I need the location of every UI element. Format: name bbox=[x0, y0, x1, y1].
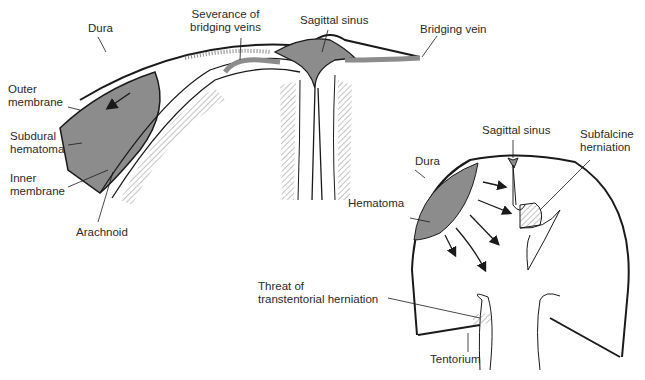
label-subdural-hematoma: Subdural hematoma bbox=[10, 130, 64, 156]
label-hematoma: Hematoma bbox=[348, 197, 404, 210]
label-inner-membrane: Inner membrane bbox=[10, 172, 65, 198]
sagittal-sinus-shape bbox=[275, 39, 355, 88]
label-transtentorial-herniation: Threat of transtentorial herniation bbox=[258, 280, 378, 306]
label-tentorium: Tentorium bbox=[430, 353, 481, 366]
label-outer-membrane: Outer membrane bbox=[8, 83, 63, 109]
label-severance-bridging-veins: Severance of bridging veins bbox=[190, 8, 261, 34]
label-dura-top: Dura bbox=[88, 22, 113, 35]
label-sagittal-sinus-coronal: Sagittal sinus bbox=[482, 124, 550, 137]
label-bridging-vein: Bridging vein bbox=[420, 23, 486, 36]
coronal-view-diagram bbox=[412, 155, 629, 370]
subfalcine-herniation-shape bbox=[520, 203, 542, 228]
label-sagittal-sinus-top: Sagittal sinus bbox=[300, 14, 368, 27]
label-dura-coronal: Dura bbox=[415, 155, 440, 168]
diagram-canvas bbox=[0, 0, 645, 380]
hematoma-shape bbox=[414, 163, 478, 240]
label-arachnoid: Arachnoid bbox=[76, 226, 128, 239]
transtentorial-herniation-shape bbox=[473, 313, 492, 325]
label-subfalcine-herniation: Subfalcine herniation bbox=[580, 128, 634, 154]
top-view-diagram bbox=[60, 35, 420, 205]
